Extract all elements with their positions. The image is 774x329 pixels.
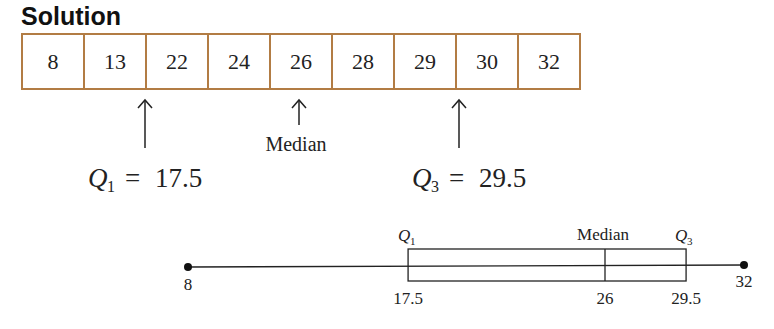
min-point xyxy=(184,263,192,271)
q3-value: 29.5 xyxy=(479,163,526,193)
tick-label-max: 32 xyxy=(736,272,753,291)
tick-label-min: 8 xyxy=(184,275,193,294)
box-plot: Q 1 Median Q 3 8 17.5 26 29.5 32 xyxy=(184,225,753,308)
boxplot-q3-symbol: Q xyxy=(675,226,687,245)
boxplot-median-label: Median xyxy=(577,225,629,244)
q3-subscript: 3 xyxy=(431,178,439,195)
diagram-canvas: Median Q 1 = 17.5 Q 3 = 29.5 Q 1 Median … xyxy=(0,0,774,329)
q3-formula: Q 3 = 29.5 xyxy=(412,163,526,195)
median-label: Median xyxy=(265,133,326,155)
tick-label-median: 26 xyxy=(597,289,614,308)
tick-label-q3: 29.5 xyxy=(671,289,701,308)
q1-formula: Q 1 = 17.5 xyxy=(88,163,202,195)
max-point xyxy=(740,261,748,269)
whisker-line xyxy=(188,265,744,267)
q3-equals: = xyxy=(449,163,464,193)
q1-equals: = xyxy=(125,163,140,193)
boxplot-q3-subscript: 3 xyxy=(687,235,693,247)
q1-subscript: 1 xyxy=(107,178,115,195)
boxplot-q1-subscript: 1 xyxy=(410,235,416,247)
q1-value: 17.5 xyxy=(155,163,202,193)
boxplot-q1-symbol: Q xyxy=(398,226,410,245)
tick-label-q1: 17.5 xyxy=(393,289,423,308)
q1-symbol: Q xyxy=(88,163,108,193)
q3-symbol: Q xyxy=(412,163,432,193)
